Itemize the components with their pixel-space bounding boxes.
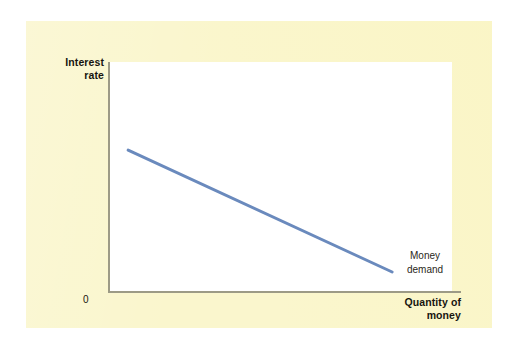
money-demand-curve-svg xyxy=(0,0,509,348)
money-demand-curve xyxy=(128,150,392,272)
money-demand-figure: Interest rate Quantity of money 0 Money … xyxy=(0,0,509,348)
money-demand-label: Money demand xyxy=(396,249,454,276)
